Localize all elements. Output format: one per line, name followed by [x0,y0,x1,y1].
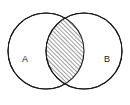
venn-diagram-canvas: A B [0,0,130,105]
set-b-label: B [104,54,110,64]
set-a-label: A [22,54,28,64]
venn-diagram-figure: A B [0,0,130,105]
